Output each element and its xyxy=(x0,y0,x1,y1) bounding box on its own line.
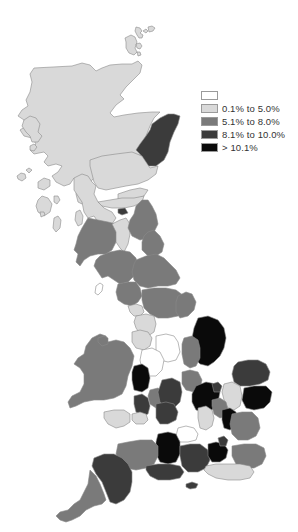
region-small-dark-2 xyxy=(212,382,222,392)
region-small-dark xyxy=(118,208,128,215)
region-isle-of-wight xyxy=(186,482,198,489)
legend-label: 8.1% to 10.0% xyxy=(222,129,285,140)
region-surrey-dark xyxy=(218,436,228,446)
region-warwickshire xyxy=(156,402,178,424)
region-oxfordshire xyxy=(198,406,214,430)
region-suffolk xyxy=(242,386,272,410)
choropleth-map xyxy=(0,0,298,532)
region-norfolk xyxy=(232,360,270,386)
region-humberside xyxy=(176,292,196,318)
legend-swatch-none xyxy=(201,91,218,100)
region-wiltshire xyxy=(156,432,180,464)
isle-of-man xyxy=(95,283,103,295)
legend-item-none xyxy=(201,89,285,102)
region-gloucestershire xyxy=(176,426,198,442)
legend-label: 0.1% to 5.0% xyxy=(222,103,280,114)
legend-item-0-5: 0.1% to 5.0% xyxy=(201,102,285,115)
region-nottinghamshire xyxy=(182,336,200,368)
northern-isles xyxy=(125,26,155,56)
region-lancashire xyxy=(116,282,142,306)
region-north-yorkshire xyxy=(132,254,180,288)
legend-swatch-light xyxy=(201,104,218,113)
region-sussex xyxy=(204,464,254,480)
legend-label: > 10.1% xyxy=(222,142,258,153)
region-gwent-light xyxy=(132,412,148,424)
legend-item-8-10: 8.1% to 10.0% xyxy=(201,128,285,141)
legend-label: 5.1% to 8.0% xyxy=(222,116,280,127)
map-legend: 0.1% to 5.0% 5.1% to 8.0% 8.1% to 10.0% … xyxy=(201,89,285,154)
legend-item-over-10: > 10.1% xyxy=(201,141,285,154)
region-dyfed-light xyxy=(104,410,130,428)
legend-swatch-medium xyxy=(201,117,218,126)
legend-swatch-black xyxy=(201,143,218,152)
region-cheshire xyxy=(132,330,152,350)
region-cumbria xyxy=(94,250,138,284)
region-dorset xyxy=(146,464,184,480)
region-clwyd-black xyxy=(132,364,150,392)
region-essex xyxy=(230,412,260,440)
region-merseyside xyxy=(128,304,144,316)
legend-item-5-8: 5.1% to 8.0% xyxy=(201,115,285,128)
legend-swatch-dark xyxy=(201,130,218,139)
